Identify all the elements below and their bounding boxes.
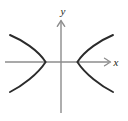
y-axis-label: y [60,5,66,17]
hyperbola-figure: x y [0,0,128,121]
figure-canvas: x y [0,0,128,121]
x-axis-label: x [113,56,119,68]
